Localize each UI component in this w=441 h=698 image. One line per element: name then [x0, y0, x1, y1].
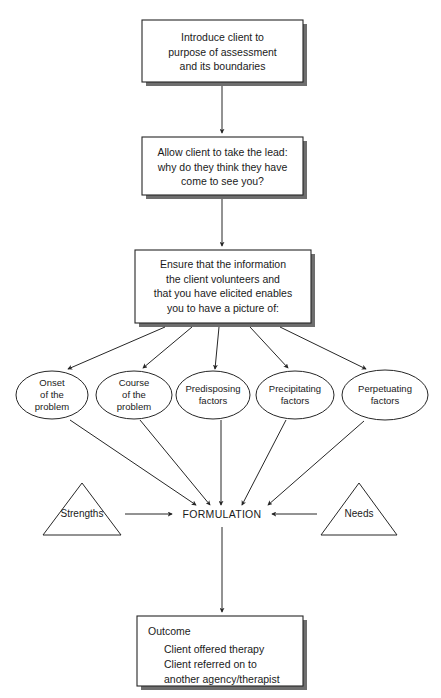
- ellipse-predisposing: [176, 371, 250, 419]
- ellipse-course: [96, 371, 172, 419]
- triangle-strengths: [43, 483, 121, 535]
- ellipse-onset: [16, 371, 88, 419]
- arrow-ensure-to-perpetuating: [280, 327, 366, 369]
- flowchart-graphics: [0, 0, 441, 698]
- box-outcome: [137, 616, 303, 686]
- ellipse-precipitating: [256, 371, 334, 419]
- arrow-course-to-formulation: [140, 420, 210, 505]
- flowchart-canvas: Introduce client to purpose of assessmen…: [0, 0, 441, 698]
- ellipse-perpetuating: [342, 370, 428, 420]
- box-ensure-information: [135, 250, 311, 323]
- box-allow-lead: [142, 137, 303, 195]
- arrow-perpetuating-to-formulation: [268, 421, 364, 505]
- triangle-needs: [321, 483, 397, 535]
- arrow-ensure-to-precipitating: [250, 327, 288, 368]
- arrow-precipitating-to-formulation: [242, 420, 286, 505]
- arrow-ensure-to-predisposing: [215, 327, 219, 369]
- arrow-ensure-to-onset: [68, 327, 165, 369]
- box-introduce: [142, 20, 303, 82]
